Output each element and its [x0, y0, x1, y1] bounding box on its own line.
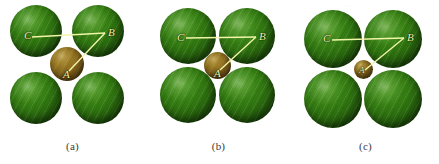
panel-b-stage: C B A — [145, 0, 292, 140]
panel-b: C B A (b) — [145, 0, 292, 164]
anion-sphere-bottom-right — [219, 67, 275, 123]
vertex-label-c: C — [24, 30, 31, 41]
panel-a-caption: (a) — [0, 140, 145, 152]
vertex-label-b: B — [259, 31, 266, 42]
anion-sphere-top-right — [72, 5, 124, 57]
panel-c-stage: C B A — [292, 0, 439, 140]
panel-a: C B A (a) — [0, 0, 145, 164]
panel-c: C B A (c) — [292, 0, 439, 164]
vertex-label-c: C — [323, 33, 330, 44]
anion-sphere-bottom-right — [72, 72, 124, 124]
vertex-label-b: B — [407, 32, 414, 43]
anion-sphere-bottom-right — [364, 70, 422, 128]
vertex-label-b: B — [108, 27, 115, 38]
anion-sphere-bottom-left — [10, 72, 62, 124]
panel-c-caption: (c) — [292, 140, 439, 152]
panel-a-stage: C B A — [0, 0, 145, 140]
vertex-label-a: A — [359, 66, 365, 75]
vertex-label-a: A — [214, 68, 221, 79]
vertex-label-c: C — [177, 32, 184, 43]
panel-b-caption: (b) — [145, 140, 292, 152]
figure-root: ... C B A (a) — [0, 0, 439, 164]
vertex-label-a: A — [63, 69, 70, 80]
anion-sphere-top-left — [304, 10, 362, 68]
anion-sphere-top-left — [10, 5, 62, 57]
anion-sphere-bottom-left — [304, 70, 362, 128]
